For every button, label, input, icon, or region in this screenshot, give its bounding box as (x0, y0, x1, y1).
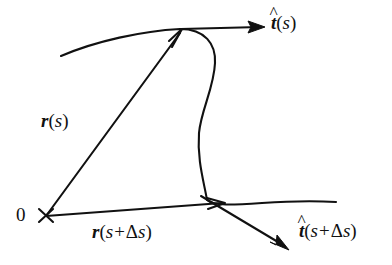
t-hat-glyph-s: ^t (271, 13, 276, 32)
label-position-at-s: r(s) (41, 111, 68, 130)
close-paren: ) (145, 221, 151, 242)
t-hat-glyph-s-plus-ds: ^t (299, 221, 304, 240)
delta-symbol: Δ (331, 220, 343, 241)
plus-sign: + (113, 221, 126, 242)
plus-sign: + (318, 220, 331, 241)
hat-accent-icon: ^ (269, 4, 277, 21)
label-tangent-at-s-plus-ds: ^t(s+Δs) (299, 221, 357, 240)
arclength-arg: s (283, 12, 290, 33)
close-paren: ) (350, 220, 356, 241)
label-position-at-s-plus-ds: r(s+Δs) (92, 222, 152, 241)
hat-accent-icon: ^ (297, 212, 305, 229)
close-paren: ) (62, 110, 68, 131)
close-paren: ) (290, 12, 296, 33)
origin-label: 0 (16, 205, 26, 224)
delta-symbol: Δ (126, 221, 138, 242)
label-tangent-at-s: ^t(s) (271, 13, 296, 32)
arclength-arg: s (311, 220, 318, 241)
